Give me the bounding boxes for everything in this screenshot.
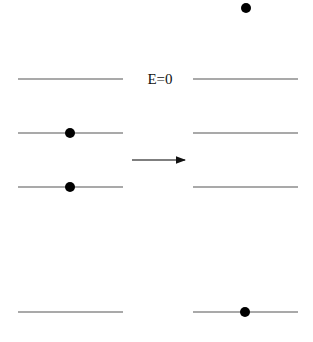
right-particle-dot <box>240 307 250 317</box>
left-particle-dot <box>65 182 75 192</box>
final-state-levels <box>193 79 298 317</box>
left-particle-dot <box>65 128 75 138</box>
free-particle-dot <box>241 3 251 13</box>
energy-level-diagram <box>0 0 313 342</box>
initial-state-levels <box>18 79 123 312</box>
zero-energy-label: E=0 <box>147 72 172 87</box>
